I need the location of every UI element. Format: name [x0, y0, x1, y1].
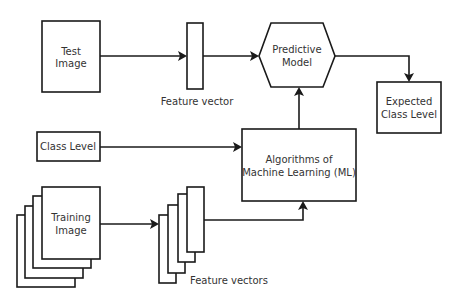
- class-level-label: Class Level: [40, 141, 96, 152]
- edge-class-level-to-ml: [100, 142, 242, 152]
- training-image-label-2: Image: [55, 225, 86, 236]
- predictive-model-label-1: Predictive: [272, 44, 321, 55]
- ml-algorithms-label-1: Algorithms of: [265, 154, 332, 165]
- expected-class-level-label-2: Class Level: [381, 109, 437, 120]
- training-image-label-1: Training: [50, 212, 90, 223]
- ml-pipeline-diagram: Test Image Feature vector Predictive Mod…: [0, 0, 459, 303]
- edge-feature-vectors-to-ml: [204, 201, 308, 220]
- class-level-node: Class Level: [37, 132, 100, 161]
- test-image-label-2: Image: [55, 58, 86, 69]
- feature-vectors-label: Feature vectors: [190, 275, 268, 286]
- feature-vector-node: Feature vector: [161, 23, 235, 107]
- feature-vector-label: Feature vector: [161, 96, 235, 107]
- expected-class-level-label-1: Expected: [386, 96, 433, 107]
- feature-vectors-node: Feature vectors: [159, 187, 268, 286]
- edge-model-to-expected: [335, 56, 414, 82]
- ml-algorithms-node: Algorithms of Machine Learning (ML): [242, 129, 356, 201]
- predictive-model-node: Predictive Model: [259, 23, 335, 87]
- edge-training-to-feature-vectors: [100, 219, 159, 229]
- test-image-node: Test Image: [42, 21, 100, 92]
- training-image-node: Training Image: [17, 187, 100, 287]
- edge-feature-vector-to-model: [203, 51, 259, 61]
- test-image-label-1: Test: [60, 46, 81, 57]
- predictive-model-label-2: Model: [282, 57, 312, 68]
- expected-class-level-node: Expected Class Level: [377, 82, 441, 133]
- ml-algorithms-label-2: Machine Learning (ML): [242, 167, 356, 178]
- edge-test-to-feature-vector: [100, 51, 187, 61]
- edge-ml-to-model: [294, 87, 304, 129]
